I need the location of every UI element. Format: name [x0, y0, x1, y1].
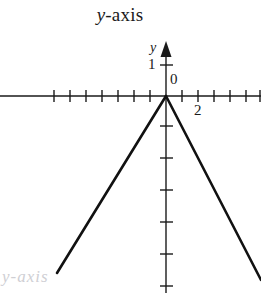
- y-axis-arrowhead-icon: [161, 41, 172, 57]
- origin-label: 0: [170, 72, 178, 87]
- coordinate-plane-svg: [0, 0, 261, 293]
- plot-curve-left-arm: [57, 96, 166, 273]
- plot-curve: [57, 96, 261, 280]
- y-axis-label: y: [150, 41, 156, 55]
- plot-curve-right-arm: [166, 96, 261, 280]
- x-tick-label-2: 2: [194, 103, 202, 118]
- y-tick-label-1: 1: [148, 57, 156, 72]
- scan-bleed-artifact: y-axis: [2, 268, 49, 286]
- figure-container: y-axis: [0, 0, 261, 293]
